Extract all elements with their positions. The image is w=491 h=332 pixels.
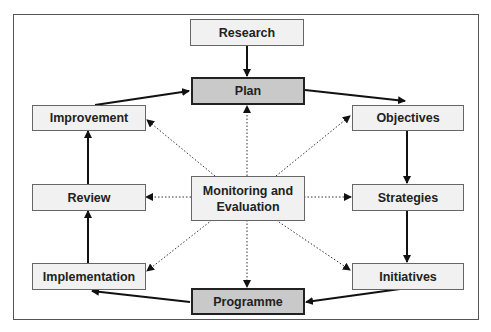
node-strategies: Strategies	[352, 184, 464, 211]
dotted-monitoring-improvement	[147, 120, 215, 176]
node-improvement: Improvement	[32, 105, 146, 131]
arrow-plan-objectives	[305, 90, 405, 101]
dotted-monitoring-objectives	[276, 116, 350, 176]
dotted-monitoring-initiatives	[276, 220, 350, 270]
node-research: Research	[190, 19, 304, 46]
dotted-monitoring-implementation	[147, 220, 212, 271]
arrow-programme-implementation	[92, 291, 190, 302]
node-review: Review	[32, 184, 146, 211]
arrow-initiatives-programme	[306, 289, 400, 302]
node-initiatives: Initiatives	[352, 263, 464, 290]
node-programme: Programme	[191, 288, 305, 315]
node-monitoring-evaluation: Monitoring and Evaluation	[191, 176, 305, 221]
node-objectives: Objectives	[352, 105, 464, 131]
node-plan: Plan	[191, 77, 305, 105]
arrow-improvement-plan	[95, 91, 189, 105]
node-implementation: Implementation	[32, 263, 146, 290]
